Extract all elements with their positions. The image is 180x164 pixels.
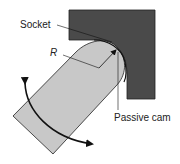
passive-cam-label: Passive cam [114, 112, 171, 123]
passive-cam-diagram: Socket R Passive cam [0, 0, 180, 164]
socket-label: Socket [20, 19, 51, 30]
radius-label: R [50, 47, 57, 58]
finger-link [13, 41, 125, 154]
